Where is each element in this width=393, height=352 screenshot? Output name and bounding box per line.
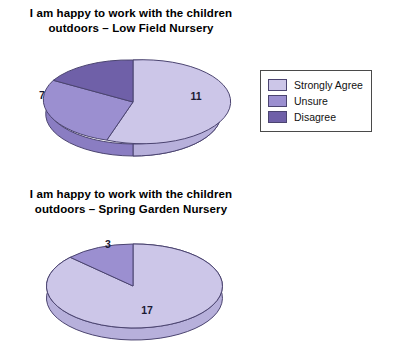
legend-item-unsure: Unsure — [268, 93, 363, 109]
chart-title-line-1: I am happy to work with the children — [12, 6, 250, 21]
pie-svg-spring-garden — [28, 224, 238, 342]
legend-label-unsure: Unsure — [294, 95, 328, 107]
chart-title-low-field: I am happy to work with the children out… — [12, 6, 250, 36]
legend-label-strongly-agree: Strongly Agree — [294, 79, 363, 91]
pie-data-label-unsure: 7 — [39, 89, 45, 101]
pie-data-label-strongly-agree: 11 — [190, 90, 201, 102]
chart-spring-garden-nursery: I am happy to work with the children out… — [0, 176, 393, 352]
pie-data-label-strongly-agree: 17 — [141, 304, 153, 316]
legend-item-strongly-agree: Strongly Agree — [268, 77, 363, 93]
legend-low-field: Strongly Agree Unsure Disagree — [260, 70, 372, 132]
chart-title-spring-garden: I am happy to work with the children out… — [12, 187, 250, 217]
pie-svg-low-field — [28, 40, 238, 158]
pie-chart-figure: { "colors": { "strongly_agree": "#ccc6e8… — [0, 0, 393, 352]
pie-data-label-unsure: 3 — [105, 238, 111, 250]
pie-spring-garden: 17 3 — [28, 224, 238, 342]
pie-low-field: 11 7 2 — [28, 40, 238, 158]
legend-swatch-disagree — [268, 111, 287, 123]
pie-data-label-disagree: 2 — [103, 50, 109, 62]
chart-title-line-2: outdoors – Low Field Nursery — [12, 21, 250, 36]
legend-swatch-unsure — [268, 95, 287, 107]
legend-item-disagree: Disagree — [268, 109, 363, 125]
chart-title-line-2: outdoors – Spring Garden Nursery — [12, 202, 250, 217]
legend-label-disagree: Disagree — [294, 111, 336, 123]
legend-swatch-strongly-agree — [268, 79, 287, 91]
chart-title-line-1: I am happy to work with the children — [12, 187, 250, 202]
chart-low-field-nursery: I am happy to work with the children out… — [0, 0, 393, 176]
